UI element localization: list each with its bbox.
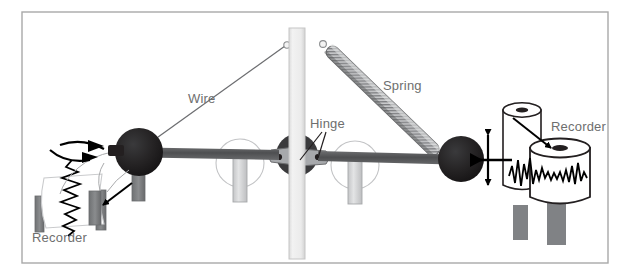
label-wire: Wire (188, 91, 216, 106)
label-recorder-left: Recorder (32, 230, 88, 245)
spring-eyelet (320, 41, 327, 48)
label-recorder-right: Recorder (551, 119, 607, 134)
seismograph-figure: Wire Hinge Spring Recorder Recorder (0, 0, 628, 278)
support-post (289, 28, 305, 259)
seismograph-diagram: Wire Hinge Spring Recorder Recorder (0, 0, 628, 278)
label-hinge: Hinge (310, 116, 345, 131)
label-spring: Spring (383, 78, 422, 93)
